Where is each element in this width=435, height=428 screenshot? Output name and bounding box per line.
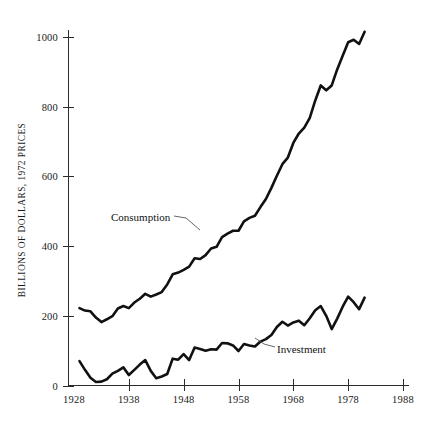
investment-line — [79, 297, 364, 382]
investment-series-label: Investment — [277, 343, 326, 355]
economic-line-chart: BILLIONS OF DOLLARS, 1972 PRICES 0200400… — [0, 0, 435, 428]
consumption-line — [79, 32, 364, 322]
y-tick-label-800: 800 — [10, 101, 58, 112]
axes-group — [69, 30, 410, 386]
y-tick-label-200: 200 — [10, 310, 58, 321]
x-tick-label-1928: 1928 — [63, 394, 85, 405]
y-tick-label-600: 600 — [10, 171, 58, 182]
x-tick-label-1958: 1958 — [228, 394, 250, 405]
x-tick-label-1968: 1968 — [282, 394, 304, 405]
series-group — [79, 32, 364, 382]
y-tick-label-0: 0 — [10, 380, 58, 391]
x-tick-label-1948: 1948 — [173, 394, 195, 405]
y-tick-label-1000: 1000 — [10, 32, 58, 43]
x-tick-label-1938: 1938 — [118, 394, 140, 405]
x-tick-label-1978: 1978 — [337, 394, 359, 405]
consumption-series-label: Consumption — [111, 211, 170, 223]
y-tick-label-400: 400 — [10, 241, 58, 252]
chart-plot-area — [0, 0, 435, 428]
y-axis-title: BILLIONS OF DOLLARS, 1972 PRICES — [17, 123, 27, 298]
x-tick-label-1988: 1988 — [392, 394, 414, 405]
consumption-leader-line — [174, 216, 200, 230]
